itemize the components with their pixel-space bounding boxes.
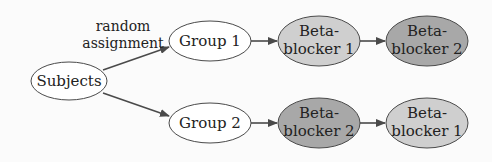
- node-group2-beta-blocker-2: Beta- blocker 2: [278, 98, 360, 148]
- node-group2: Group 2: [169, 103, 251, 143]
- diagram-svg: random assignment Subjects Group 1 Group…: [0, 0, 492, 162]
- node-subjects: Subjects: [31, 62, 107, 100]
- node-group1-label: Group 1: [179, 32, 241, 50]
- node-group2-label: Group 2: [179, 114, 241, 132]
- edge-label-line2: assignment: [82, 35, 164, 51]
- node-label-line1: Beta-: [299, 22, 339, 40]
- node-label-line2: blocker 1: [283, 40, 354, 58]
- node-label-line1: Beta-: [407, 104, 447, 122]
- node-label-line2: blocker 2: [283, 122, 354, 140]
- node-label-line2: blocker 1: [391, 122, 462, 140]
- node-group1-beta-blocker-2: Beta- blocker 2: [386, 16, 468, 66]
- node-group2-beta-blocker-1: Beta- blocker 1: [386, 98, 468, 148]
- node-label-line2: blocker 2: [391, 40, 462, 58]
- node-group1: Group 1: [169, 21, 251, 61]
- edge-label-line1: random: [96, 18, 151, 34]
- node-subjects-label: Subjects: [36, 72, 101, 90]
- edge-subjects-group2: [103, 93, 169, 116]
- node-label-line1: Beta-: [299, 104, 339, 122]
- diagram-canvas: random assignment Subjects Group 1 Group…: [0, 0, 492, 162]
- node-label-line1: Beta-: [407, 22, 447, 40]
- edge-label-random-assignment: random assignment: [82, 18, 164, 51]
- node-group1-beta-blocker-1: Beta- blocker 1: [278, 16, 360, 66]
